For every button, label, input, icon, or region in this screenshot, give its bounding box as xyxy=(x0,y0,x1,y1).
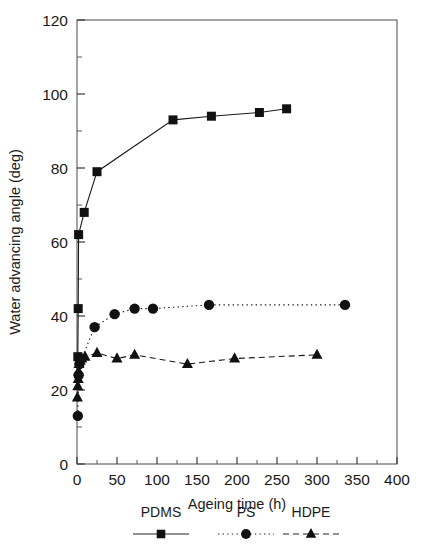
chart-container: 020406080100120050100150200250300350400A… xyxy=(0,0,421,549)
y-tick-label: 60 xyxy=(51,234,69,251)
marker-triangle xyxy=(229,352,240,362)
legend-label: PS xyxy=(237,504,256,520)
x-tick-label: 400 xyxy=(384,471,410,488)
marker-square xyxy=(93,167,102,176)
legend-item-pdms: PDMS xyxy=(133,504,189,538)
marker-square xyxy=(207,112,216,121)
marker-square xyxy=(157,530,166,539)
y-tick-label: 80 xyxy=(51,160,69,177)
x-tick-label: 100 xyxy=(144,471,170,488)
x-tick-label: 250 xyxy=(264,471,290,488)
marker-circle xyxy=(148,303,158,313)
marker-square xyxy=(282,104,291,113)
legend-label: HDPE xyxy=(292,504,331,520)
x-tick-label: 200 xyxy=(224,471,250,488)
y-tick-label: 100 xyxy=(42,86,68,103)
marker-triangle xyxy=(129,349,140,359)
marker-square xyxy=(74,230,83,239)
marker-triangle xyxy=(92,347,103,357)
marker-square xyxy=(169,115,178,124)
marker-square xyxy=(255,108,264,117)
marker-circle xyxy=(241,529,251,539)
series-pdms xyxy=(73,104,291,361)
legend-label: PDMS xyxy=(141,504,181,520)
marker-circle xyxy=(109,309,119,319)
water-contact-angle-chart: 020406080100120050100150200250300350400A… xyxy=(0,0,421,549)
y-tick-label: 40 xyxy=(51,308,69,325)
x-tick-label: 150 xyxy=(184,471,210,488)
x-tick-label: 350 xyxy=(344,471,370,488)
y-tick-label: 120 xyxy=(42,12,68,29)
series-layer xyxy=(72,104,350,421)
x-tick-label: 0 xyxy=(73,471,82,488)
plot-frame xyxy=(77,20,397,464)
axes-layer xyxy=(77,20,397,464)
y-tick-label: 20 xyxy=(51,382,69,399)
labels-layer: 020406080100120050100150200250300350400A… xyxy=(7,12,410,512)
marker-circle xyxy=(340,300,350,310)
legend-item-hdpe: HDPE xyxy=(283,504,339,538)
marker-triangle xyxy=(72,391,83,401)
chart-page: 020406080100120050100150200250300350400A… xyxy=(0,0,421,549)
y-axis-title: Water advancing angle (deg) xyxy=(7,149,23,335)
marker-circle xyxy=(204,300,214,310)
x-tick-label: 300 xyxy=(304,471,330,488)
series-line xyxy=(78,109,287,357)
marker-circle xyxy=(129,303,139,313)
y-tick-label: 0 xyxy=(59,456,68,473)
x-tick-label: 50 xyxy=(108,471,126,488)
marker-circle xyxy=(73,411,83,421)
legend-layer: PDMSPSHDPE xyxy=(133,504,339,539)
series-hdpe xyxy=(72,347,323,402)
marker-triangle xyxy=(312,349,323,359)
marker-triangle xyxy=(306,528,316,538)
marker-square xyxy=(74,304,83,313)
marker-circle xyxy=(89,322,99,332)
marker-square xyxy=(80,208,89,217)
